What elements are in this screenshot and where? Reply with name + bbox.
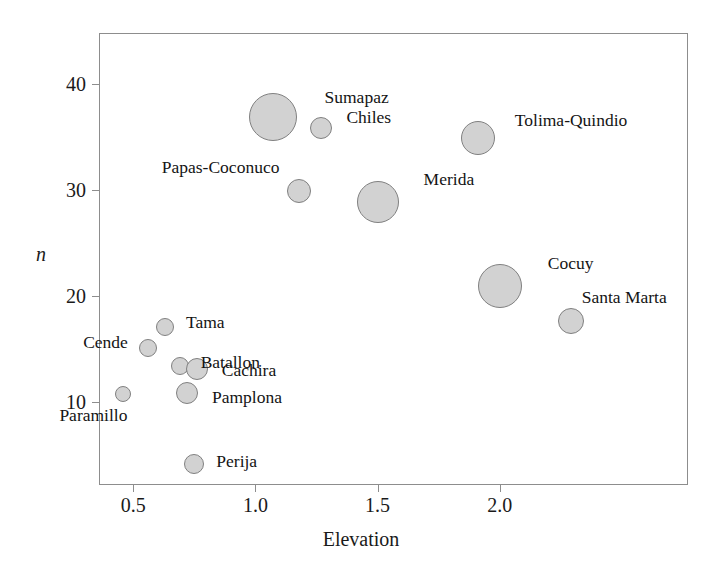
bubble-marker — [478, 264, 522, 308]
bubble-marker — [461, 121, 495, 155]
bubble-marker — [287, 179, 311, 203]
x-tick-mark — [133, 485, 134, 492]
x-tick-label: 1.5 — [348, 494, 408, 517]
x-tick-label: 1.0 — [225, 494, 285, 517]
y-tick-label: 30 — [40, 179, 86, 202]
bubble-marker — [184, 454, 204, 474]
point-label: Paramillo — [59, 404, 127, 425]
x-tick-mark — [500, 485, 501, 492]
bubble-marker — [249, 93, 297, 141]
point-label: Cende — [83, 332, 128, 353]
bubble-marker — [156, 318, 174, 336]
point-label: Tolima-Quindio — [515, 110, 628, 131]
y-tick-mark — [92, 402, 99, 403]
point-label: Perija — [216, 450, 257, 471]
x-tick-mark — [255, 485, 256, 492]
y-axis-title: n — [36, 243, 46, 266]
point-label: Tama — [186, 311, 225, 332]
y-tick-label: 20 — [40, 285, 86, 308]
y-tick-mark — [92, 190, 99, 191]
point-label: Pamplona — [212, 386, 282, 407]
plot-area-frame — [99, 33, 688, 485]
point-label: Santa Marta — [582, 286, 667, 307]
point-label: Papas-Coconuco — [162, 157, 280, 178]
y-tick-mark — [92, 84, 99, 85]
bubble-marker — [558, 308, 584, 334]
y-tick-label: 40 — [40, 72, 86, 95]
bubble-chart-figure: 102030400.51.01.52.0 SumapazChilesTolima… — [0, 0, 722, 578]
x-tick-mark — [378, 485, 379, 492]
point-label: Merida — [424, 168, 475, 189]
bubble-marker — [310, 117, 332, 139]
bubble-marker — [176, 382, 198, 404]
bubble-marker — [357, 181, 399, 223]
point-label: Cachira — [222, 360, 276, 381]
bubble-marker — [115, 386, 131, 402]
point-label: Cocuy — [548, 252, 594, 273]
x-tick-label: 2.0 — [470, 494, 530, 517]
point-label: Sumapaz — [325, 86, 389, 107]
point-label: Chiles — [346, 107, 391, 128]
y-tick-mark — [92, 296, 99, 297]
bubble-marker — [139, 339, 157, 357]
x-tick-label: 0.5 — [103, 494, 163, 517]
x-axis-title: Elevation — [0, 528, 722, 551]
